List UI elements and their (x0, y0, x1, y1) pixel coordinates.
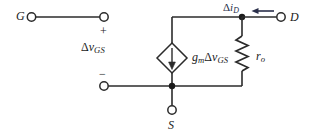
gate-minus-terminal-circle[interactable] (100, 82, 108, 90)
gate-plus-terminal-circle[interactable] (100, 13, 108, 21)
dependent-source-delta: Δ (204, 50, 212, 64)
output-resistance-subscript: o (261, 54, 265, 64)
source-terminal-circle[interactable] (168, 106, 176, 114)
circuit-diagram-canvas: G D S + − ΔvGS gmΔvGS ro ΔiD (0, 0, 310, 140)
drain-terminal-label: D (290, 11, 299, 23)
schematic-svg (0, 0, 310, 140)
source-junction-dot (169, 83, 175, 89)
output-resistor-zigzag (236, 36, 248, 71)
drain-terminal-circle[interactable] (277, 13, 285, 21)
dependent-source-label: gmΔvGS (192, 51, 228, 65)
drain-current-label: ΔiD (223, 2, 239, 15)
input-voltage-delta: Δ (81, 40, 89, 54)
input-voltage-subscript: GS (94, 45, 105, 55)
source-terminal-label: S (168, 119, 174, 131)
input-voltage-label: ΔvGS (81, 41, 105, 55)
drain-current-subscript: D (233, 6, 239, 15)
input-polarity-plus-label: + (100, 25, 107, 37)
dependent-source-voltage-subscript: GS (217, 55, 228, 65)
gate-terminal-label: G (16, 10, 25, 22)
gate-terminal-circle[interactable] (27, 13, 35, 21)
output-resistance-label: ro (256, 50, 265, 64)
drain-current-arrow-head-left-icon (252, 8, 259, 14)
input-polarity-minus-label: − (99, 68, 106, 80)
